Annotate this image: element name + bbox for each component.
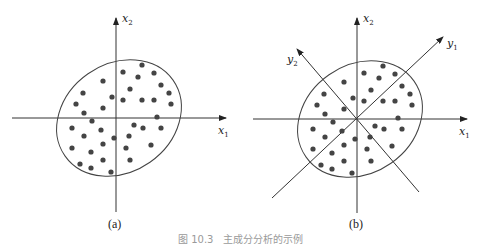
- data-point: [120, 69, 125, 74]
- data-point: [88, 165, 93, 170]
- data-point: [341, 106, 346, 111]
- data-point: [341, 142, 346, 147]
- data-point: [100, 105, 105, 110]
- data-point: [109, 94, 114, 99]
- data-point: [126, 133, 131, 138]
- x1-axis-label: x1: [218, 124, 229, 139]
- data-point: [80, 90, 85, 95]
- y1-axis-label: y1: [446, 37, 458, 52]
- data-point: [367, 134, 372, 139]
- data-point: [352, 136, 357, 141]
- data-point: [329, 150, 334, 155]
- data-point: [314, 102, 319, 107]
- data-point: [108, 169, 113, 174]
- panel-a: x2 x1 (a): [12, 12, 229, 231]
- data-point: [368, 87, 373, 92]
- data-point: [158, 82, 163, 87]
- data-point: [100, 141, 105, 146]
- data-point: [111, 135, 116, 140]
- data-point: [341, 79, 346, 84]
- data-point: [350, 95, 355, 100]
- data-point: [100, 157, 105, 162]
- data-point: [148, 142, 153, 147]
- data-point: [140, 125, 145, 130]
- data-point: [339, 128, 344, 133]
- data-point: [98, 127, 103, 132]
- data-point: [69, 145, 74, 150]
- y2-axis-label: y2: [286, 53, 298, 68]
- data-point: [407, 91, 412, 96]
- data-point: [368, 158, 373, 163]
- data-point: [341, 158, 346, 163]
- data-point: [322, 134, 327, 139]
- data-point: [392, 98, 397, 103]
- data-point: [318, 162, 323, 167]
- data-point: [166, 90, 171, 95]
- data-point: [380, 98, 385, 103]
- data-point: [381, 126, 386, 131]
- data-point: [322, 111, 327, 116]
- data-point: [139, 62, 144, 67]
- data-point: [321, 91, 326, 96]
- data-point: [389, 143, 394, 148]
- data-point: [399, 83, 404, 88]
- data-point: [73, 101, 78, 106]
- data-point: [81, 133, 86, 138]
- data-point: [127, 157, 132, 162]
- data-point: [120, 97, 125, 102]
- data-point: [392, 71, 397, 76]
- data-point: [123, 145, 128, 150]
- data-point: [168, 101, 173, 106]
- data-point: [158, 125, 163, 130]
- data-point: [127, 86, 132, 91]
- data-point: [69, 125, 74, 130]
- data-point: [329, 166, 334, 171]
- data-point: [88, 149, 93, 154]
- panel-b: x2 x1 y1 y2 (b): [253, 12, 470, 231]
- pca-figure: x2 x1 (a) x2 x1 y1 y2 (b) 图 10.3 主成分分析的示…: [0, 0, 479, 244]
- panel-label-a: (a): [108, 217, 121, 231]
- data-point: [349, 170, 354, 175]
- data-point: [380, 63, 385, 68]
- data-point: [151, 97, 156, 102]
- data-point: [154, 114, 159, 119]
- data-point: [310, 146, 315, 151]
- x2-axis-label: x2: [122, 12, 133, 27]
- data-point: [100, 78, 105, 83]
- data-point: [399, 126, 404, 131]
- data-point: [364, 146, 369, 151]
- data-point: [376, 75, 381, 80]
- y2-axis: [297, 49, 419, 192]
- panel-label-b: (b): [349, 217, 363, 231]
- data-point: [89, 118, 94, 123]
- x2-axis-label: x2: [363, 12, 374, 27]
- data-point: [409, 102, 414, 107]
- figure-caption: 图 10.3 主成分分析的示例: [178, 233, 303, 244]
- data-point: [361, 70, 366, 75]
- data-point: [81, 110, 86, 115]
- data-point: [372, 123, 377, 128]
- data-point: [131, 122, 136, 127]
- data-point: [395, 115, 400, 120]
- data-point: [135, 74, 140, 79]
- x1-axis-label: x1: [459, 125, 470, 140]
- data-point: [77, 161, 82, 166]
- data-point: [151, 70, 156, 75]
- data-point: [310, 126, 315, 131]
- data-point: [139, 97, 144, 102]
- data-point: [330, 119, 335, 124]
- data-point: [361, 98, 366, 103]
